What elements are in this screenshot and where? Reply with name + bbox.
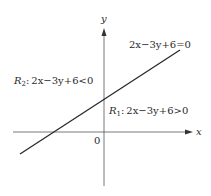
line-equation-text: 2x−3y+6=0 [129, 39, 191, 50]
coordinate-diagram: y x 0 2x−3y+6=0 R2: 2x−3y+6<0 R1: 2x−3y+… [0, 0, 211, 196]
region-r2-inequality: : 2x−3y+6<0 [26, 75, 93, 86]
region-r1-inequality: : 2x−3y+6>0 [121, 105, 188, 116]
x-axis-label: x [196, 126, 202, 137]
line-equation-label: 2x−3y+6=0 [129, 39, 191, 50]
y-axis-arrow-icon [102, 28, 107, 36]
region-r2-label: R2: 2x−3y+6<0 [13, 75, 93, 88]
y-axis-label: y [100, 13, 107, 24]
x-axis-arrow-icon [185, 130, 193, 135]
region-r1-label: R1: 2x−3y+6>0 [108, 105, 188, 118]
origin-label: 0 [94, 135, 100, 146]
